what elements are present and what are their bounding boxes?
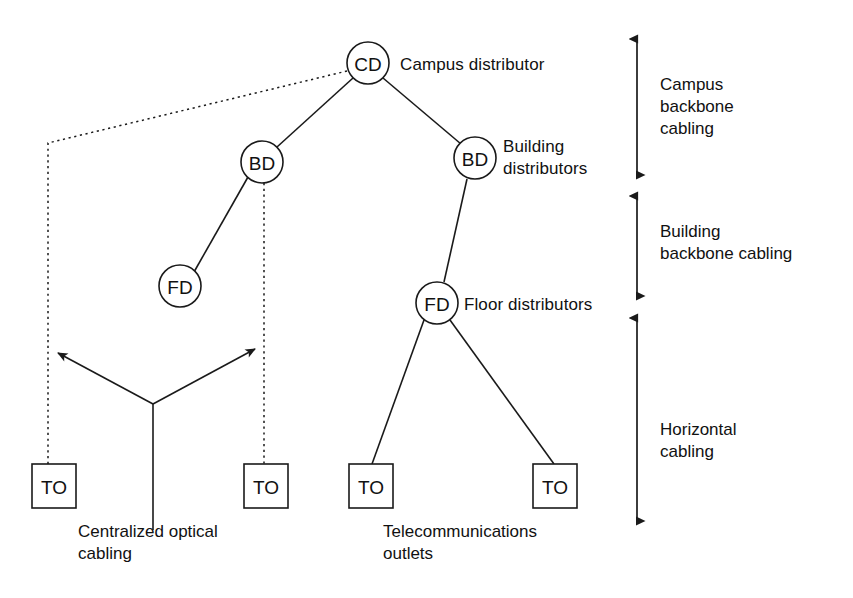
edge-fd-right-to-outlet-4 [450, 320, 554, 464]
node-bd-right-label: BD [462, 149, 488, 170]
dotted-path-outlet-1 [48, 71, 347, 464]
circle-nodes: CD BD BD FD FD [159, 42, 496, 324]
node-to-4[interactable]: TO [533, 464, 577, 508]
horizontal-cabling-label: Horizontal cabling [660, 419, 737, 463]
edge-bd-right-to-fd-right [444, 179, 467, 282]
node-bd-left-label: BD [249, 153, 275, 174]
cd-annotation-label: Campus distributor [400, 54, 544, 76]
node-to-4-label: TO [542, 477, 568, 498]
telecommunications-outlets-caption: Telecommunications outlets [383, 521, 537, 565]
spur-arm-left [58, 353, 153, 404]
node-fd-left[interactable]: FD [159, 265, 201, 307]
node-to-2[interactable]: TO [244, 464, 288, 508]
campus-backbone-cabling-label: Campus backbone cabling [660, 74, 734, 140]
tree-edges [194, 78, 554, 464]
centralized-optical-spur [58, 349, 255, 530]
outlet-nodes: TO TO TO TO [32, 464, 577, 508]
node-to-2-label: TO [253, 477, 279, 498]
node-to-3-label: TO [358, 477, 384, 498]
diagram-canvas: CD BD BD FD FD TO [0, 0, 853, 598]
edge-bd-left-to-fd-left [194, 177, 248, 272]
bd-annotation-label: Building distributors [503, 136, 587, 180]
centralized-optical-cabling-caption: Centralized optical cabling [78, 521, 218, 565]
centralized-optical-paths [48, 71, 347, 464]
spur-arm-right [153, 349, 255, 404]
node-to-3[interactable]: TO [349, 464, 393, 508]
node-fd-left-label: FD [167, 277, 192, 298]
node-to-1[interactable]: TO [32, 464, 76, 508]
node-fd-right-label: FD [424, 294, 449, 315]
node-bd-right[interactable]: BD [454, 137, 496, 179]
node-cd[interactable]: CD [347, 42, 389, 84]
node-cd-label: CD [354, 54, 381, 75]
node-bd-left[interactable]: BD [241, 141, 283, 183]
edge-cd-to-bd-left [277, 78, 353, 147]
edge-cd-to-bd-right [383, 78, 461, 144]
node-fd-right[interactable]: FD [416, 282, 458, 324]
building-backbone-cabling-label: Building backbone cabling [660, 221, 792, 265]
node-to-1-label: TO [41, 477, 67, 498]
fd-annotation-label: Floor distributors [464, 294, 592, 316]
edge-fd-right-to-outlet-3 [372, 320, 424, 464]
